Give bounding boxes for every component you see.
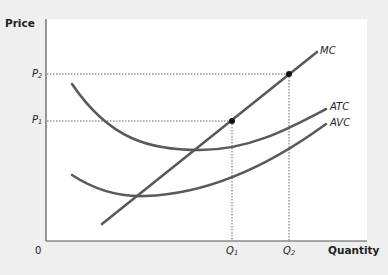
p2-sub: 2: [38, 72, 42, 80]
p1-sub: 1: [38, 118, 42, 126]
mc-label: MC: [320, 45, 336, 56]
avc-label: AVC: [330, 117, 350, 128]
avc-curve: [72, 124, 326, 196]
q1-label: Q1: [226, 245, 238, 257]
origin-label: 0: [35, 245, 41, 256]
q1-sub: 1: [234, 249, 238, 257]
atc-curve: [72, 84, 326, 150]
y-axis-title: Price: [5, 17, 35, 29]
x-axis-title: Quantity: [328, 244, 379, 256]
q1-letter: Q: [226, 245, 234, 256]
p2-label: P2: [32, 68, 42, 80]
atc-label: ATC: [330, 101, 349, 112]
point-q2-p2: [286, 71, 292, 77]
p1-label: P1: [32, 114, 42, 126]
q2-sub: 2: [291, 249, 295, 257]
point-q1-p1: [229, 118, 235, 124]
q2-letter: Q: [283, 245, 291, 256]
chart-svg: [0, 0, 388, 275]
chart-panel: Price Quantity 0 P2 P1 Q1 Q2 MC ATC AVC: [0, 0, 388, 275]
q2-label: Q2: [283, 245, 295, 257]
